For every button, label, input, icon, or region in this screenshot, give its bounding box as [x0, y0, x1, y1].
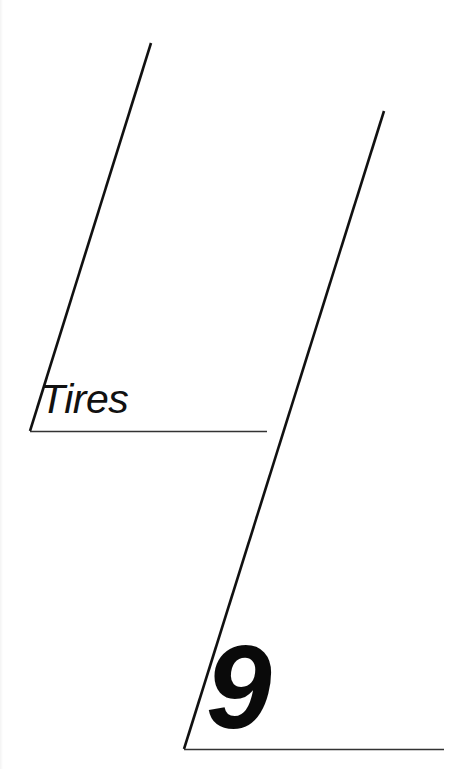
- upper-slanted-rule: [30, 43, 151, 431]
- chapter-number: 9: [206, 627, 272, 747]
- section-title: Tires: [40, 377, 128, 421]
